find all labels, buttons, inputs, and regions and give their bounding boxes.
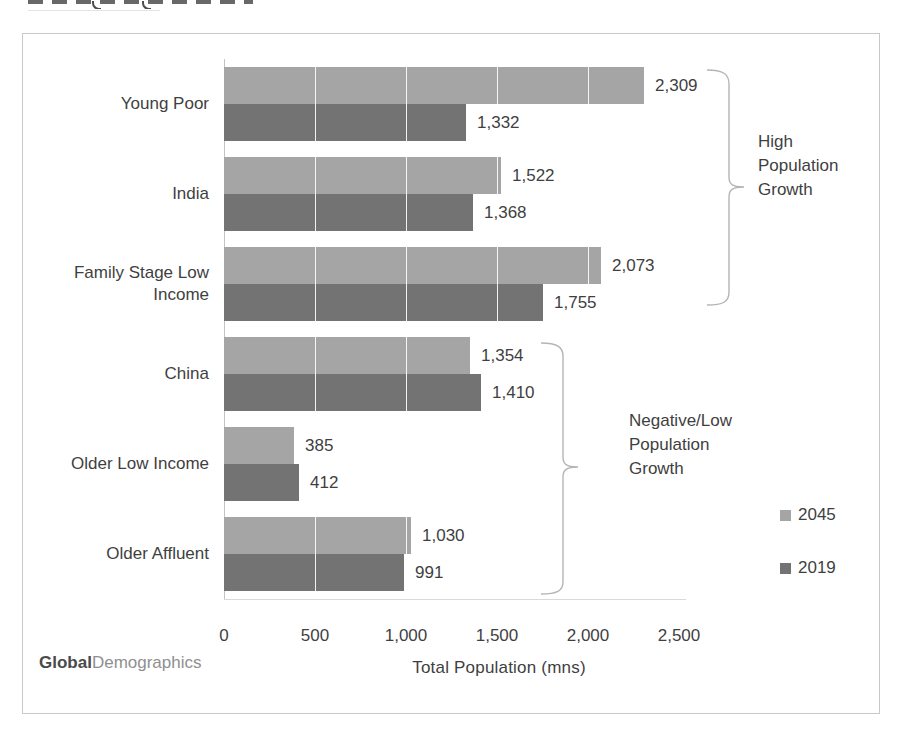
category-label: India (59, 157, 209, 231)
x-axis-line (224, 599, 686, 600)
category-label: China (59, 337, 209, 411)
x-tick-label: 2,500 (644, 626, 714, 646)
bar-2019-china (224, 374, 481, 411)
category-label: Family Stage Low Income (59, 247, 209, 321)
gridline (406, 59, 407, 599)
bar-2019-young-poor (224, 104, 466, 141)
bar-2019-family-stage-low-income (224, 284, 543, 321)
gridline (588, 59, 589, 599)
logo-text-light: Demographics (92, 653, 202, 672)
x-tick-label: 1,500 (462, 626, 532, 646)
logo-text-bold: Global (39, 653, 92, 672)
category-label: Older Low Income (59, 427, 209, 501)
bar-value-label: 1,332 (477, 104, 520, 141)
bar-value-label: 1,410 (492, 374, 535, 411)
cropped-title-underline (28, 10, 160, 11)
bar-2019-older-low-income (224, 464, 299, 501)
category-label: Young Poor (59, 67, 209, 141)
high-growth-label: High Population Growth (758, 130, 858, 202)
bar-2045-older-low-income (224, 427, 294, 464)
bar-value-label: 1,522 (512, 157, 555, 194)
cropped-title-glyph-bottoms (28, 0, 253, 4)
bar-2045-india (224, 157, 501, 194)
bar-value-label: 1,755 (554, 284, 597, 321)
category-label: Older Affluent (59, 517, 209, 591)
bar-value-label: 1,030 (422, 517, 465, 554)
cropped-descender (92, 1, 101, 9)
gridline (315, 59, 316, 599)
bar-value-label: 412 (310, 464, 338, 501)
x-tick-label: 0 (189, 626, 259, 646)
legend-label: 2019 (798, 558, 836, 578)
legend-item-2019: 2019 (780, 558, 836, 578)
low-growth-label: Negative/Low Population Growth (629, 409, 745, 481)
bar-value-label: 1,354 (481, 337, 524, 374)
bar-2045-china (224, 337, 470, 374)
legend-swatch-2045 (780, 510, 791, 521)
bar-value-label: 2,309 (655, 67, 698, 104)
chart-container: 2,3091,3321,5221,3682,0731,7551,3541,410… (22, 33, 880, 714)
bar-value-label: 385 (305, 427, 333, 464)
legend-item-2045: 2045 (780, 505, 836, 525)
legend: 20452019 (780, 505, 836, 578)
cropped-descender (142, 1, 151, 9)
bar-value-label: 991 (415, 554, 443, 591)
bar-2045-older-affluent (224, 517, 411, 554)
bar-2019-india (224, 194, 473, 231)
bar-2045-family-stage-low-income (224, 247, 601, 284)
legend-label: 2045 (798, 505, 836, 525)
x-tick-label: 500 (280, 626, 350, 646)
bar-2045-young-poor (224, 67, 644, 104)
bar-value-label: 2,073 (612, 247, 655, 284)
legend-swatch-2019 (780, 563, 791, 574)
bar-2019-older-affluent (224, 554, 404, 591)
bar-value-label: 1,368 (484, 194, 527, 231)
gridline (679, 59, 680, 599)
x-tick-label: 2,000 (553, 626, 623, 646)
global-demographics-logo: GlobalDemographics (39, 653, 202, 673)
cropped-title-fragment (28, 0, 258, 9)
low-growth-bracket (541, 343, 578, 594)
high-growth-bracket (707, 70, 744, 305)
x-tick-label: 1,000 (371, 626, 441, 646)
x-axis-title: Total Population (mns) (389, 658, 609, 678)
